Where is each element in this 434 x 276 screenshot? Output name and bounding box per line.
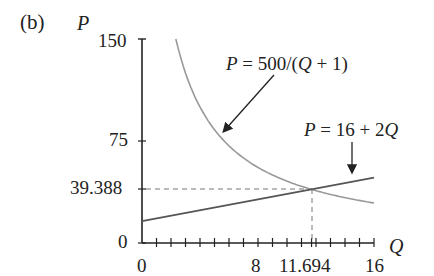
x-tick-label-0: 0 <box>137 256 147 275</box>
curve1-end: + 1) <box>312 53 348 74</box>
supply-line <box>142 178 374 222</box>
curve2-mid: = 16 + 2 <box>316 119 385 140</box>
y-tick-label-75: 75 <box>109 130 128 149</box>
curve2-p: P <box>304 119 316 140</box>
q-axis-label: Q <box>389 236 403 256</box>
curve1-p: P <box>226 53 238 74</box>
panel-label: (b) <box>20 12 45 33</box>
y-tick-label-150: 150 <box>98 31 127 50</box>
y-tick-label-0: 0 <box>118 232 128 251</box>
x-tick-label-11694: 11.694 <box>279 256 331 275</box>
x-tick-label-8: 8 <box>251 256 261 275</box>
y-tick-label-39: 39.388 <box>70 178 122 197</box>
curve1-q: Q <box>298 53 312 74</box>
curve1-mid: = 500/( <box>238 53 298 74</box>
curve2-annotation: P = 16 + 2Q <box>304 120 398 139</box>
x-tick-label-16: 16 <box>365 256 384 275</box>
p-axis-label: P <box>77 13 89 33</box>
curve1-annotation: P = 500/(Q + 1) <box>226 54 348 73</box>
curve2-q: Q <box>385 119 399 140</box>
arrow-curve1 <box>224 75 274 131</box>
